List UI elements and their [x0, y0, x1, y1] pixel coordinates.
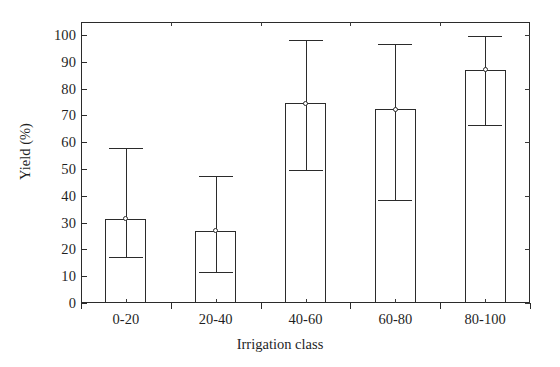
error-bar-line — [126, 148, 127, 258]
right-axis-tick — [525, 89, 530, 90]
right-axis-tick — [525, 196, 530, 197]
right-axis-tick — [525, 249, 530, 250]
y-axis-tick-label: 80 — [36, 82, 76, 97]
y-axis-tick-label: 30 — [36, 216, 76, 231]
x-axis-minor-tick — [306, 299, 307, 303]
x-axis-tick — [350, 303, 351, 309]
x-axis-tick-label: 80-100 — [445, 311, 525, 327]
error-bar-line — [485, 36, 486, 124]
x-axis-tick — [171, 303, 172, 309]
x-axis-minor-tick — [126, 299, 127, 303]
y-axis-tick-label: 10 — [36, 269, 76, 284]
error-bar-cap-lower — [109, 257, 143, 258]
x-axis-label: Irrigation class — [0, 336, 560, 353]
error-bar-cap-upper — [199, 176, 233, 177]
mean-marker — [483, 67, 488, 72]
y-axis-tick-label: 20 — [36, 242, 76, 257]
error-bar-line — [395, 44, 396, 201]
error-bar-cap-lower — [289, 170, 323, 171]
y-axis-label: Yield (%) — [17, 123, 34, 180]
error-bar-cap-upper — [289, 40, 323, 41]
y-axis-label-container: Yield (%) — [10, 0, 40, 303]
y-axis-tick-label: 50 — [36, 162, 76, 177]
x-axis-tick-label: 20-40 — [176, 311, 256, 327]
right-axis-tick — [525, 142, 530, 143]
x-axis-tick-label: 60-80 — [355, 311, 435, 327]
y-axis-tick-label: 40 — [36, 189, 76, 204]
top-axis-tick — [440, 22, 441, 26]
mean-marker — [393, 107, 398, 112]
right-axis-tick — [525, 35, 530, 36]
x-axis-tick — [440, 303, 441, 309]
error-bar-cap-upper — [468, 36, 502, 37]
x-axis-tick — [530, 303, 531, 309]
x-axis-tick — [261, 303, 262, 309]
x-axis-tick-label: 40-60 — [266, 311, 346, 327]
y-axis-tick-label: 90 — [36, 55, 76, 70]
error-bar-cap-upper — [378, 44, 412, 45]
x-axis-minor-tick — [395, 299, 396, 303]
y-axis-tick-label: 70 — [36, 108, 76, 123]
error-bar-cap-lower — [378, 200, 412, 201]
x-axis-tick — [81, 303, 82, 309]
mean-marker — [303, 101, 308, 106]
error-bar-line — [216, 176, 217, 272]
chart-figure: Yield (%) 0102030405060708090100 0-2020-… — [0, 0, 560, 367]
y-axis-tick-label: 100 — [36, 28, 76, 43]
error-bar-cap-upper — [109, 148, 143, 149]
x-axis-minor-tick — [216, 299, 217, 303]
x-axis-tick-label: 0-20 — [86, 311, 166, 327]
top-axis-tick — [350, 22, 351, 26]
y-axis-tick-label: 60 — [36, 135, 76, 150]
error-bar-cap-lower — [199, 272, 233, 273]
error-bar-cap-lower — [468, 125, 502, 126]
top-axis-tick — [261, 22, 262, 26]
top-axis-tick — [171, 22, 172, 26]
x-axis-minor-tick — [485, 299, 486, 303]
y-axis-tick-label: 0 — [36, 296, 76, 311]
